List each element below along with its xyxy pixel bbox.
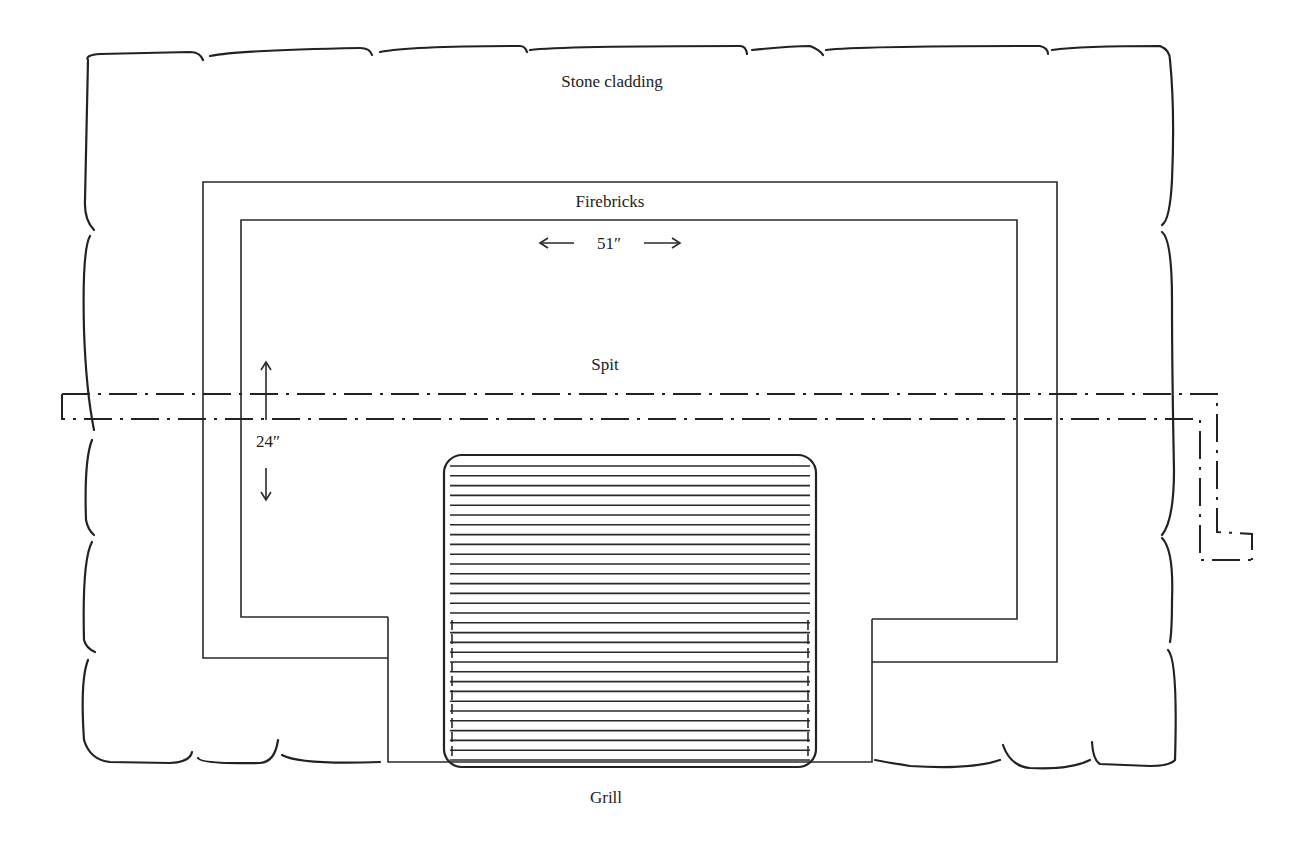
fireplace-diagram: Stone cladding Firebricks 51″ Spit 24″ G… <box>0 0 1298 846</box>
grill-label: Grill <box>590 788 622 807</box>
width-dimension-label: 51″ <box>597 234 621 253</box>
stone-cladding-label: Stone cladding <box>561 72 663 91</box>
firebricks-label: Firebricks <box>576 192 645 211</box>
depth-dimension-label: 24″ <box>256 432 280 451</box>
grill-bars <box>450 466 810 760</box>
depth-dimension-arrows <box>261 362 271 500</box>
firebricks-outer-outline <box>203 182 1057 662</box>
spit-label: Spit <box>591 355 619 374</box>
stone-cladding-outline <box>83 46 1176 768</box>
